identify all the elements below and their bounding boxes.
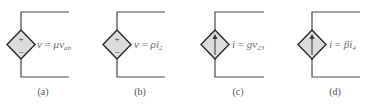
caption-a: (a) [37, 86, 48, 98]
figure-d: i = βi4 (d) [298, 12, 360, 98]
figure-b: + − v = ρi2 (b) [103, 12, 165, 98]
wire-c-bottom [215, 59, 264, 77]
caption-b: (b) [134, 86, 146, 98]
wire-d [312, 12, 360, 30]
wire-a-bottom [21, 59, 69, 77]
minus-sign: − [114, 47, 119, 57]
wire-d-bottom [312, 59, 360, 77]
plus-sign: + [114, 34, 119, 44]
wire-b [117, 12, 165, 30]
figure-c: i = gv23 (c) [201, 12, 265, 98]
equation-label-a: v = μvab [37, 38, 72, 52]
equation-label-b: v = ρi2 [134, 38, 163, 52]
wire-b-bottom [117, 59, 165, 77]
caption-d: (d) [329, 86, 341, 98]
dependent-sources-diagram: + − v = μvab (a) + − v = ρi2 (b) i = gv2… [0, 0, 373, 105]
wire-c [215, 12, 264, 30]
figure-a: + − v = μvab (a) [7, 12, 72, 98]
minus-sign: − [18, 47, 23, 57]
equation-label-c: i = gv23 [232, 38, 265, 52]
plus-sign: + [18, 34, 23, 44]
caption-c: (c) [232, 86, 243, 98]
wire-a [21, 12, 69, 30]
equation-label-d: i = βi4 [329, 38, 356, 52]
